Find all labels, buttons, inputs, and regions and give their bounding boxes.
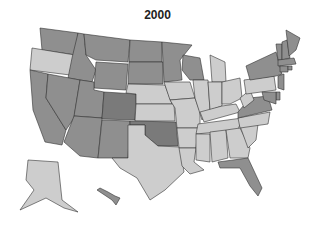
state-mt (84, 34, 130, 62)
state-nj (278, 74, 284, 90)
state-nd (129, 40, 162, 62)
state-de (276, 92, 280, 100)
state-wi (182, 55, 204, 80)
us-map (0, 0, 315, 229)
state-ar (177, 128, 198, 148)
state-wy (94, 62, 128, 90)
state-hi (97, 188, 120, 205)
state-fl (218, 158, 262, 196)
state-sd (128, 62, 163, 84)
state-in (208, 82, 222, 110)
state-oh (222, 78, 242, 104)
state-ak (20, 160, 78, 212)
state-al (210, 130, 228, 162)
state-nm (98, 120, 130, 158)
state-ks (135, 104, 175, 121)
state-ny (246, 52, 282, 80)
state-ct (280, 66, 288, 72)
state-ms (196, 134, 210, 162)
state-mi (210, 55, 226, 82)
state-ri (288, 66, 292, 70)
state-co (102, 92, 136, 120)
